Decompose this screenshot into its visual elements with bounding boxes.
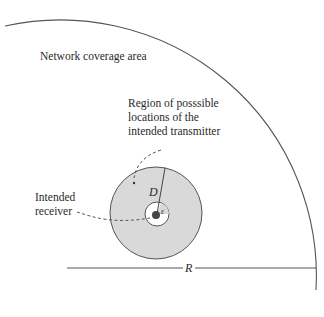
radius-R-label: R xyxy=(184,261,193,275)
region-label-line2: locations of the xyxy=(128,111,199,123)
coverage-area-label: Network coverage area xyxy=(40,50,147,63)
network-coverage-diagram: Network coverage area Region of posssibl… xyxy=(0,0,324,317)
transmitter-dot xyxy=(133,182,135,184)
region-label-line1: Region of posssible xyxy=(128,97,219,110)
receiver-dot xyxy=(152,211,160,219)
receiver-label-line1: Intended xyxy=(35,191,75,203)
region-label-line3: intended transmitter xyxy=(128,125,220,137)
radius-D-label: D xyxy=(148,185,158,199)
receiver-label-line2: receiver xyxy=(35,205,72,217)
